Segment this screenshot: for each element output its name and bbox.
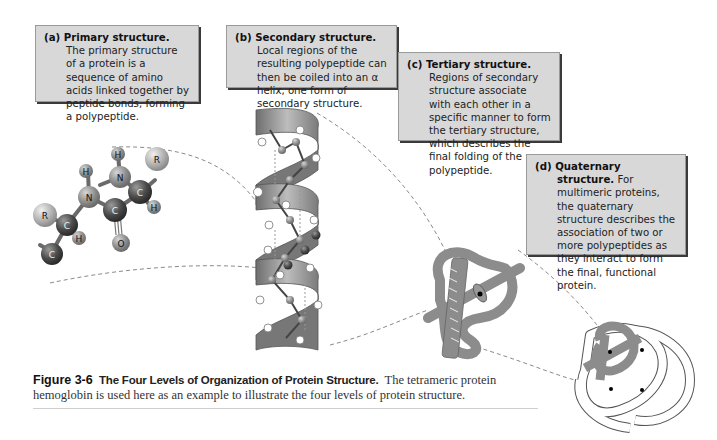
panel-text: Local regions of the resulting polypepti… [257, 45, 387, 109]
panel-secondary-structure: (b) Secondary structure. Local regions o… [226, 25, 397, 88]
panel-primary-structure: (a) Primary structure. The primary struc… [35, 25, 199, 102]
atom-c: C [137, 188, 143, 198]
panel-label: (c) Tertiary structure. [407, 59, 531, 70]
caption-divider [33, 408, 538, 409]
atom-h: H [76, 234, 83, 244]
alpha-helix-illustration [254, 108, 323, 350]
atom-c: C [64, 221, 70, 231]
panel-tertiary-structure: (c) Tertiary structure. Regions of secon… [398, 52, 560, 141]
tertiary-structure-illustration [428, 252, 520, 358]
atom-h: H [115, 150, 122, 160]
panel-text: For multimeric proteins, the quaternary … [557, 174, 675, 291]
figure-caption: Figure 3-6 The Four Levels of Organizati… [33, 373, 538, 402]
atom-h: H [83, 167, 90, 177]
quaternary-structure-illustration [579, 326, 690, 428]
atom-n: N [117, 173, 124, 183]
atom-h: H [151, 203, 158, 213]
atom-r: R [154, 155, 160, 165]
panel-text: The primary structure of a protein is a … [66, 45, 189, 122]
atom-r: R [42, 211, 48, 221]
panel-label: (d) Quaternary structure. [535, 161, 621, 185]
figure-title: The Four Levels of Organization of Prote… [99, 374, 378, 386]
panel-quaternary-structure: (d) Quaternary structure. For multimeric… [526, 154, 686, 255]
atom-c: C [49, 250, 55, 260]
atom-c: C [112, 206, 118, 216]
panel-label: (b) Secondary structure. [235, 32, 376, 43]
panel-label: (a) Primary structure. [44, 32, 170, 43]
atom-n: N [86, 193, 93, 203]
primary-structure-molecule: H N R C H H N C O R C H C [33, 147, 169, 265]
atom-o: O [117, 239, 124, 249]
figure-number: Figure 3-6 [33, 373, 93, 387]
